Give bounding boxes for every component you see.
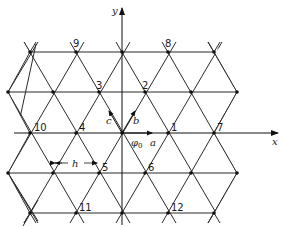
node-label-5: 5 <box>102 162 108 173</box>
x-axis-label: x <box>272 136 278 147</box>
vector-c-label: c <box>106 115 112 126</box>
node-label-9: 9 <box>73 38 79 49</box>
lattice-svg: h y x a b c φ0 1 2 3 4 5 6 7 8 9 10 11 1… <box>0 0 283 227</box>
node-label-2: 2 <box>142 80 148 91</box>
y-axis-label: y <box>111 5 118 16</box>
vector-b-label: b <box>133 115 139 126</box>
spacing-label: h <box>72 158 78 169</box>
node-label-3: 3 <box>96 80 102 91</box>
node-label-8: 8 <box>165 38 171 49</box>
node-label-6: 6 <box>148 162 154 173</box>
lattice-diagram: h y x a b c φ0 1 2 3 4 5 6 7 8 9 10 11 1… <box>0 0 283 227</box>
node-label-4: 4 <box>79 122 85 133</box>
vector-a-label: a <box>150 137 156 148</box>
origin-label: φ0 <box>131 137 142 150</box>
node-label-1: 1 <box>171 122 177 133</box>
node-label-10: 10 <box>34 122 47 133</box>
node-label-11: 11 <box>79 202 92 213</box>
node-label-7: 7 <box>217 122 223 133</box>
node-label-12: 12 <box>171 202 184 213</box>
